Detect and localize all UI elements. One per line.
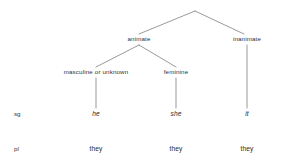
- tree-branch-lines: [0, 0, 282, 167]
- row-label-singular: sg: [14, 111, 21, 117]
- branch-root-to-inanimate: [195, 11, 244, 34]
- leaf-plural-feminine: they: [170, 146, 183, 153]
- branch-animate-to-feminine: [139, 45, 176, 67]
- node-masculine-or-unknown: masculine or unknown: [64, 69, 129, 75]
- node-feminine: feminine: [164, 69, 189, 75]
- branch-animate-to-masculine: [96, 45, 139, 67]
- row-label-plural: pl: [14, 146, 19, 152]
- pronoun-tree-diagram: animate inanimate masculine or unknown f…: [0, 0, 282, 167]
- leaf-singular-masculine: he: [92, 111, 100, 118]
- branch-root-to-animate: [139, 11, 195, 34]
- node-inanimate: inanimate: [233, 36, 261, 42]
- leaf-plural-inanimate: they: [241, 146, 254, 153]
- leaf-singular-feminine: she: [171, 111, 182, 118]
- leaf-singular-inanimate: it: [245, 111, 249, 118]
- leaf-plural-masculine: they: [90, 146, 103, 153]
- node-animate: animate: [127, 36, 150, 42]
